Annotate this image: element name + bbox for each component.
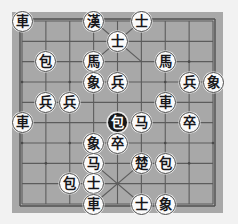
piece-horse[interactable]: 马 xyxy=(131,112,152,133)
piece-advisor[interactable]: 士 xyxy=(107,31,128,52)
piece-cannon[interactable]: 包 xyxy=(155,153,176,174)
piece-cannon[interactable]: 包 xyxy=(59,173,80,194)
piece-glyph: 象 xyxy=(159,197,172,210)
piece-glyph: 包 xyxy=(39,55,52,68)
piece-chariot[interactable]: 車 xyxy=(155,92,176,113)
piece-glyph: 馬 xyxy=(159,55,172,68)
piece-glyph: 車 xyxy=(159,96,172,109)
piece-glyph: 車 xyxy=(15,116,28,129)
piece-horse[interactable]: 馬 xyxy=(83,51,104,72)
piece-glyph: 马 xyxy=(135,116,148,129)
piece-glyph: 楚 xyxy=(135,157,148,170)
piece-glyph: 車 xyxy=(15,14,28,27)
piece-glyph: 車 xyxy=(87,197,100,210)
piece-glyph: 象 xyxy=(87,136,100,149)
piece-glyph: 象 xyxy=(87,75,100,88)
piece-glyph: 馬 xyxy=(87,55,100,68)
piece-glyph: 士 xyxy=(135,14,148,27)
piece-general-chu[interactable]: 楚 xyxy=(131,153,152,174)
piece-advisor[interactable]: 士 xyxy=(83,173,104,194)
piece-glyph: 兵 xyxy=(63,96,76,109)
piece-cannon[interactable]: 包 xyxy=(35,51,56,72)
piece-glyph: 士 xyxy=(111,35,124,48)
piece-glyph: 包 xyxy=(159,157,172,170)
piece-glyph: 象 xyxy=(206,75,219,88)
piece-elephant[interactable]: 象 xyxy=(203,72,224,93)
piece-glyph: 兵 xyxy=(39,96,52,109)
piece-glyph: 包 xyxy=(63,177,76,190)
piece-glyph: 士 xyxy=(135,197,148,210)
piece-horse[interactable]: 馬 xyxy=(155,51,176,72)
xiangqi-board[interactable]: 車漢士士包馬馬象兵兵象兵兵車車包马卒象卒马楚包包士車士象 xyxy=(12,12,223,213)
piece-layer[interactable]: 車漢士士包馬馬象兵兵象兵兵車車包马卒象卒马楚包包士車士象 xyxy=(12,12,223,213)
piece-pawn[interactable]: 卒 xyxy=(107,133,128,154)
piece-glyph: 卒 xyxy=(182,116,195,129)
piece-cannon-selected[interactable]: 包 xyxy=(107,112,128,133)
piece-soldier[interactable]: 兵 xyxy=(179,72,200,93)
piece-glyph: 兵 xyxy=(182,75,195,88)
piece-soldier[interactable]: 兵 xyxy=(59,92,80,113)
piece-elephant[interactable]: 象 xyxy=(83,133,104,154)
piece-advisor[interactable]: 士 xyxy=(131,194,152,215)
piece-advisor[interactable]: 士 xyxy=(131,11,152,32)
piece-glyph: 漢 xyxy=(87,14,100,27)
piece-chariot[interactable]: 車 xyxy=(12,112,33,133)
piece-chariot[interactable]: 車 xyxy=(83,194,104,215)
xiangqi-app: 車漢士士包馬馬象兵兵象兵兵車車包马卒象卒马楚包包士車士象 xyxy=(0,0,238,224)
piece-glyph: 士 xyxy=(87,177,100,190)
piece-soldier[interactable]: 兵 xyxy=(107,72,128,93)
piece-glyph: 马 xyxy=(87,157,100,170)
piece-elephant[interactable]: 象 xyxy=(155,194,176,215)
piece-horse[interactable]: 马 xyxy=(83,153,104,174)
piece-general-han[interactable]: 漢 xyxy=(83,11,104,32)
piece-glyph: 兵 xyxy=(111,75,124,88)
piece-elephant[interactable]: 象 xyxy=(83,72,104,93)
piece-pawn[interactable]: 卒 xyxy=(179,112,200,133)
piece-glyph: 包 xyxy=(111,116,124,129)
piece-chariot[interactable]: 車 xyxy=(12,11,33,32)
piece-soldier[interactable]: 兵 xyxy=(35,92,56,113)
piece-glyph: 卒 xyxy=(111,136,124,149)
